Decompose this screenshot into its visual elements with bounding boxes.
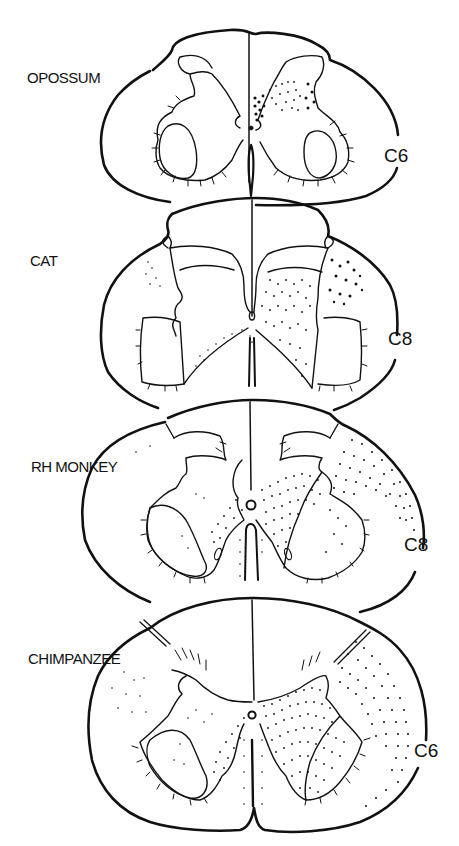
section-opossum <box>101 30 398 205</box>
species-label-cat: CAT <box>30 253 57 268</box>
section-rh-monkey <box>82 400 424 612</box>
species-label-opossum: OPOSSUM <box>27 70 100 85</box>
section-chimpanzee <box>89 598 427 832</box>
section-cat <box>101 198 398 410</box>
species-label-chimpanzee: CHIMPANZEE <box>28 651 120 666</box>
segment-label-chimpanzee: C6 <box>414 741 438 760</box>
segment-label-opossum: C6 <box>384 146 408 165</box>
spinal-cord-figure <box>0 0 459 846</box>
species-label-rh-monkey: RH MONKEY <box>31 459 117 474</box>
segment-label-cat: C8 <box>388 329 412 348</box>
segment-label-rh-monkey: C8 <box>404 535 428 554</box>
